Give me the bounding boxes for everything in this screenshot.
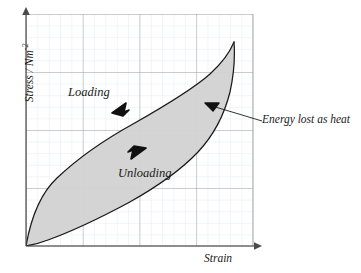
- x-axis-arrow-icon: [254, 242, 262, 250]
- x-axis-label: Strain: [204, 252, 232, 264]
- y-axis-label-base: Stress / Nm: [23, 50, 35, 102]
- y-axis-arrow-icon: [22, 7, 30, 15]
- chart-canvas: [0, 0, 361, 273]
- unloading-curve-label: Unloading: [118, 166, 171, 181]
- energy-lost-callout-label: Energy lost as heat: [262, 113, 350, 125]
- loading-curve-label: Loading: [68, 85, 110, 100]
- hysteresis-stress-strain-figure: Loading Unloading Energy lost as heat St…: [0, 0, 361, 273]
- y-axis-label-exponent: -2: [21, 44, 30, 51]
- y-axis-label: Stress / Nm-2: [21, 25, 35, 121]
